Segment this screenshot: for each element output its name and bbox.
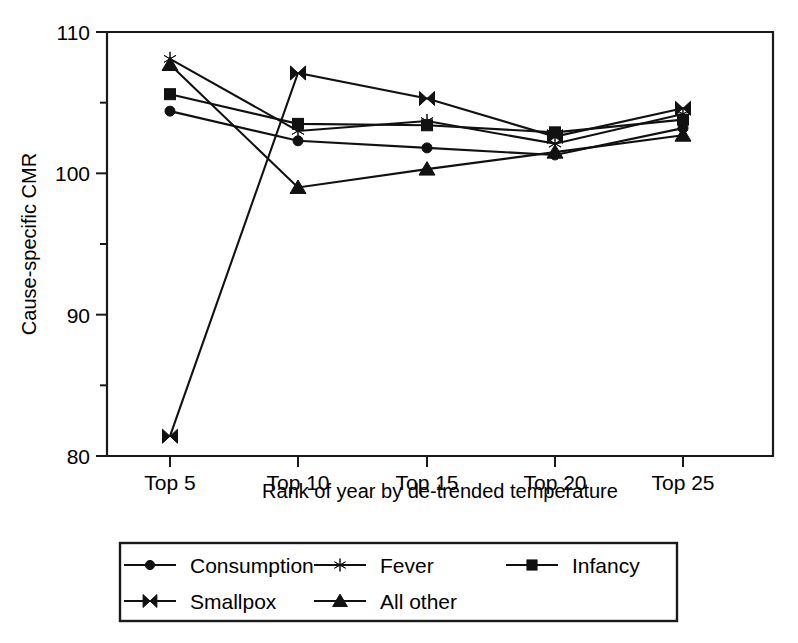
plot-border bbox=[107, 32, 773, 456]
marker-bowtie bbox=[420, 91, 435, 105]
chart-legend: ConsumptionFeverInfancySmallpoxAll other bbox=[120, 543, 677, 621]
x-axis-ticks bbox=[170, 456, 683, 467]
chart-figure: 8090100110 Top 5Top 10Top 15Top 20Top 25… bbox=[0, 0, 798, 643]
marker-circle bbox=[165, 106, 175, 116]
marker-circle bbox=[145, 560, 154, 569]
marker-square bbox=[422, 120, 433, 131]
x-tick-label: Top 5 bbox=[144, 471, 195, 494]
marker-square bbox=[165, 89, 176, 100]
legend-label: Smallpox bbox=[190, 590, 277, 613]
marker-square bbox=[527, 560, 537, 570]
cause-specific-cmr-line-chart: 8090100110 Top 5Top 10Top 15Top 20Top 25… bbox=[0, 0, 798, 643]
y-tick-label: 110 bbox=[57, 21, 90, 44]
marker-triangle bbox=[162, 57, 178, 71]
marker-bowtie bbox=[291, 66, 306, 80]
series-fever bbox=[164, 52, 689, 151]
y-axis-tick-labels: 8090100110 bbox=[55, 21, 90, 468]
x-tick-label: Top 25 bbox=[651, 471, 714, 494]
y-axis-title: Cause-specific CMR bbox=[18, 153, 40, 335]
legend-label: Infancy bbox=[572, 554, 640, 577]
y-tick-label: 100 bbox=[55, 162, 90, 185]
marker-circle bbox=[422, 143, 432, 153]
marker-square bbox=[678, 114, 689, 125]
legend-label: Fever bbox=[380, 554, 434, 577]
y-tick-label: 80 bbox=[67, 445, 90, 468]
y-tick-label: 90 bbox=[67, 304, 90, 327]
axes-frame bbox=[107, 32, 773, 456]
legend-label: All other bbox=[380, 590, 457, 613]
marker-bowtie bbox=[163, 429, 178, 443]
data-series-group bbox=[162, 52, 691, 443]
legend-label: Consumption bbox=[190, 554, 314, 577]
marker-square bbox=[293, 118, 304, 129]
x-axis-title: Rank of year by de-trended temperature bbox=[262, 480, 618, 502]
y-axis-ticks bbox=[96, 32, 107, 456]
